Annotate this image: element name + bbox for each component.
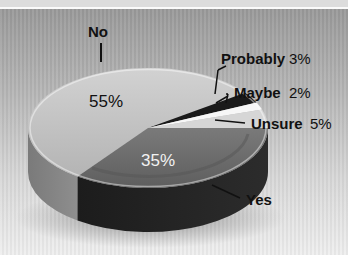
chart-frame: No 55% Probably 3% Maybe 2% Unsure 5% 35…	[0, 0, 348, 255]
pct-yes: 35%	[141, 151, 175, 170]
pct-unsure: 5%	[310, 115, 332, 132]
label-unsure: Unsure	[251, 115, 303, 132]
label-probably: Probably	[221, 50, 286, 67]
label-maybe: Maybe	[234, 84, 281, 101]
label-yes: Yes	[246, 191, 272, 208]
pct-probably: 3%	[289, 50, 311, 67]
pct-no: 55%	[89, 92, 123, 111]
pie-chart: No 55% Probably 3% Maybe 2% Unsure 5% 35…	[0, 0, 348, 255]
label-no: No	[88, 23, 108, 40]
pct-maybe: 2%	[289, 84, 311, 101]
